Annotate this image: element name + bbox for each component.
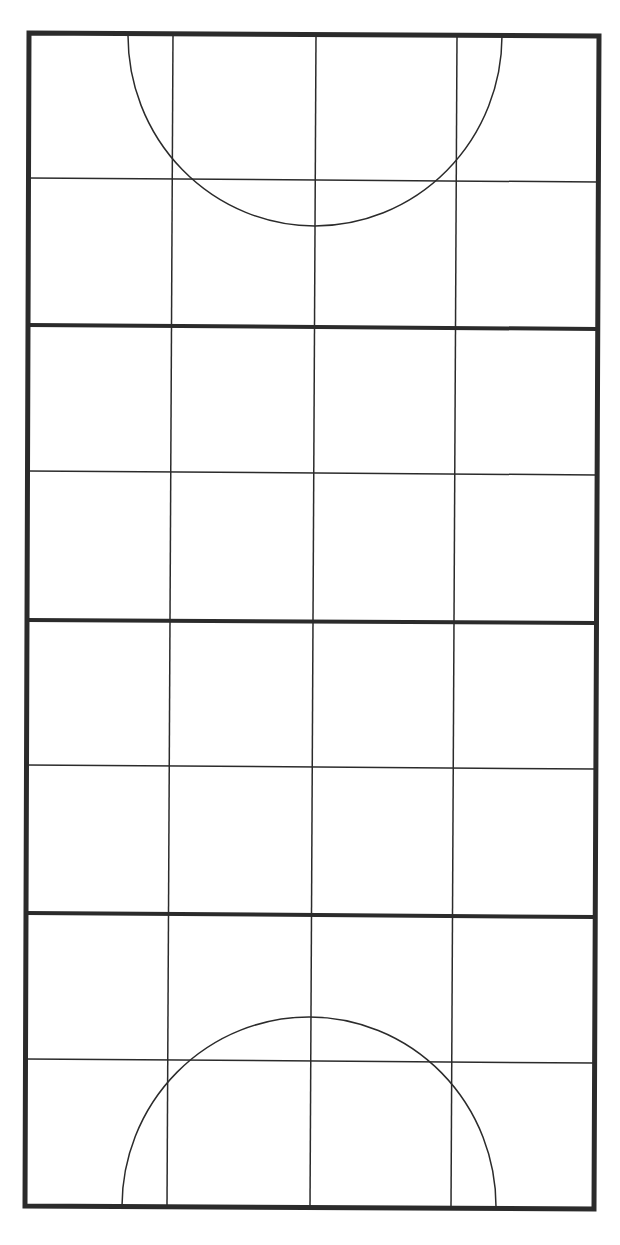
court-grid-svg <box>0 0 620 1245</box>
court-diagram <box>0 0 620 1245</box>
